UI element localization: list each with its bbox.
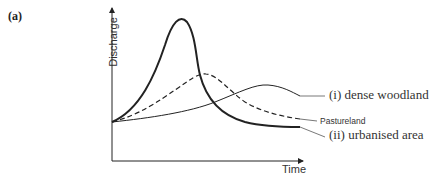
legend-pastureland: Pastureland — [320, 116, 365, 126]
urbanised-leader — [300, 127, 325, 137]
urbanised-area-curve — [112, 19, 300, 127]
pastureland-leader — [300, 119, 317, 121]
legend-dense-woodland: (i) dense woodland — [329, 87, 429, 103]
legend-urbanised-area: (ii) urbanised area — [329, 127, 424, 143]
